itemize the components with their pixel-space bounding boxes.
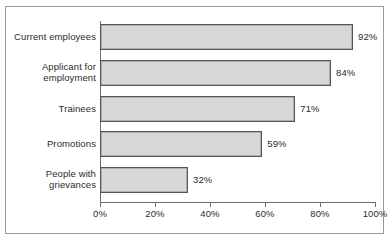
x-tick — [210, 202, 211, 207]
bar-value-label: 71% — [300, 103, 319, 114]
x-axis-line — [100, 202, 375, 203]
bar-value-label: 84% — [336, 67, 355, 78]
bar — [100, 131, 262, 157]
x-tick-label: 40% — [200, 208, 219, 219]
x-tick — [265, 202, 266, 207]
x-tick-label: 0% — [93, 208, 107, 219]
category-label: Promotions — [47, 138, 96, 149]
bar-row — [100, 60, 331, 86]
category-label: People with grievances — [46, 168, 96, 190]
category-label: Trainees — [59, 103, 96, 114]
bar-row — [100, 131, 262, 157]
x-tick-label: 80% — [310, 208, 329, 219]
bar — [100, 96, 295, 122]
x-tick-label: 20% — [145, 208, 164, 219]
bar — [100, 167, 188, 193]
x-tick — [100, 202, 101, 207]
x-tick — [320, 202, 321, 207]
chart-figure: 0%20%40%60%80%100% 92%84%71%59%32% Curre… — [0, 0, 392, 242]
bar-value-label: 92% — [358, 31, 377, 42]
bar-row — [100, 96, 295, 122]
x-tick — [375, 202, 376, 207]
bar — [100, 60, 331, 86]
category-label: Current employees — [14, 31, 96, 42]
x-tick — [155, 202, 156, 207]
plot-area: 0%20%40%60%80%100% 92%84%71%59%32% Curre… — [0, 0, 392, 242]
bar-value-label: 59% — [267, 138, 286, 149]
bar-row — [100, 167, 188, 193]
bar — [100, 24, 353, 50]
x-tick-label: 100% — [363, 208, 388, 219]
x-tick-label: 60% — [255, 208, 274, 219]
category-label: Applicant for employment — [42, 61, 96, 83]
bar-row — [100, 24, 353, 50]
bar-value-label: 32% — [193, 174, 212, 185]
